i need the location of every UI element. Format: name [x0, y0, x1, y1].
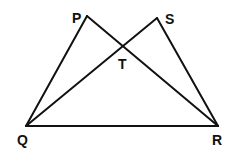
segment-pr: [87, 16, 218, 126]
segment-sr: [157, 18, 218, 126]
label-r: R: [212, 132, 222, 148]
segment-pq: [26, 16, 87, 126]
label-t: T: [118, 56, 127, 72]
label-q: Q: [17, 132, 28, 148]
geometry-diagram: P S T Q R: [0, 0, 238, 153]
segment-sq: [26, 18, 157, 126]
label-p: P: [72, 10, 81, 26]
label-s: S: [165, 11, 174, 27]
